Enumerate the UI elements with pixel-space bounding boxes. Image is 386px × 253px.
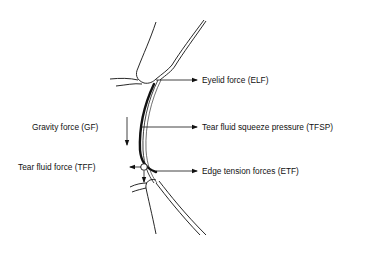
label-gravity-force: Gravity force (GF) xyxy=(32,123,98,131)
label-eyelid-force: Eyelid force (ELF) xyxy=(202,76,268,84)
force-arrows xyxy=(127,80,197,182)
label-tear-fluid-squeeze-pressure: Tear fluid squeeze pressure (TFSP) xyxy=(202,123,333,131)
upper-eyelid xyxy=(110,20,206,86)
tear-meniscus-icon xyxy=(141,164,148,171)
lower-eyelid xyxy=(130,179,206,235)
label-edge-tension-forces: Edge tension forces (ETF) xyxy=(202,167,299,175)
label-tear-fluid-force: Tear fluid force (TFF) xyxy=(18,163,95,171)
